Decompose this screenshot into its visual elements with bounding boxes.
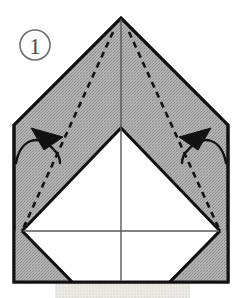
step-number-label: 1 [29,34,41,59]
drop-shadow-band [55,283,190,298]
origami-diagram-svg: 1 [0,0,245,298]
step-number-badge: 1 [20,30,50,60]
origami-figure: 1 [0,0,245,298]
